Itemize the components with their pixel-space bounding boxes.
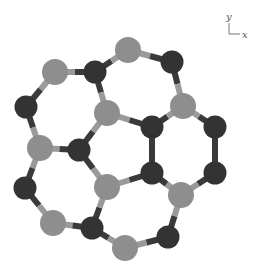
x-axis-label: x xyxy=(242,29,248,40)
axis-indicator: y x xyxy=(225,11,248,40)
dark-atom xyxy=(14,177,37,200)
light-atom xyxy=(94,100,120,126)
dark-atom xyxy=(141,162,164,185)
light-atom xyxy=(112,235,138,261)
atoms-layer xyxy=(14,37,227,261)
dark-atom xyxy=(84,61,107,84)
dark-atom xyxy=(161,51,184,74)
light-atom xyxy=(168,182,194,208)
dark-atom xyxy=(204,162,227,185)
light-atom xyxy=(170,93,196,119)
light-atom xyxy=(40,210,66,236)
dark-atom xyxy=(204,116,227,139)
dark-atom xyxy=(141,116,164,139)
dark-atom xyxy=(157,226,180,249)
y-axis-label: y xyxy=(225,11,232,22)
dark-atom xyxy=(68,139,91,162)
molecule-diagram: y x xyxy=(0,0,266,274)
light-atom xyxy=(115,37,141,63)
light-atom xyxy=(27,135,53,161)
light-atom xyxy=(42,59,68,85)
dark-atom xyxy=(15,96,38,119)
dark-atom xyxy=(81,217,104,240)
light-atom xyxy=(94,174,120,200)
